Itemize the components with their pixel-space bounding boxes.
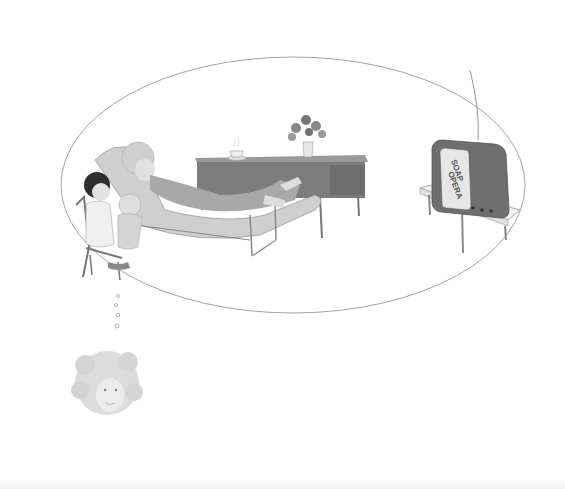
illustration-canvas: SOAP OPERA [0,0,565,489]
teacup [228,138,246,161]
tv-knob [471,206,475,210]
baby [118,194,142,249]
television: SOAP OPERA [432,140,509,218]
tv-knob [480,208,484,212]
flower-vase [288,115,326,157]
tv-knob [489,209,493,213]
thought-trail-bubbles [115,295,120,329]
dreamer-head [71,351,143,415]
bottom-edge-shadow [0,480,565,489]
